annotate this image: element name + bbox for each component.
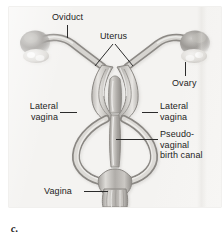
leader-lateral-vagina-right bbox=[142, 112, 158, 113]
lateral-vagina-right-structure bbox=[124, 119, 154, 181]
label-oviduct: Oviduct bbox=[52, 12, 83, 23]
leader-pseudo-vaginal-birth-canal bbox=[116, 139, 158, 140]
lateral-vagina-left-structure bbox=[76, 119, 106, 181]
label-uterus: Uterus bbox=[100, 31, 127, 42]
cervix-structure bbox=[109, 76, 122, 113]
leader-uterus bbox=[85, 42, 141, 70]
figure-root: Oviduct Uterus Ovary Lateral vagina Late… bbox=[0, 0, 224, 244]
ovary-left-structure bbox=[20, 31, 50, 64]
label-pseudo-vaginal-birth-canal: Pseudo- vaginal birth canal bbox=[160, 129, 218, 161]
leader-ovary bbox=[185, 62, 186, 76]
label-ovary: Ovary bbox=[172, 78, 197, 89]
leader-vagina bbox=[84, 191, 108, 192]
leader-oviduct bbox=[67, 25, 68, 38]
pseudo-vaginal-birth-canal-structure bbox=[110, 115, 121, 167]
figure-caption: c. bbox=[11, 223, 18, 234]
label-lateral-vagina-right: Lateral vagina bbox=[160, 101, 214, 122]
label-lateral-vagina-left: Lateral vagina bbox=[14, 101, 58, 122]
label-vagina: Vagina bbox=[44, 186, 72, 197]
ovary-right-structure bbox=[180, 31, 210, 64]
leader-lateral-vagina-left bbox=[60, 112, 77, 113]
